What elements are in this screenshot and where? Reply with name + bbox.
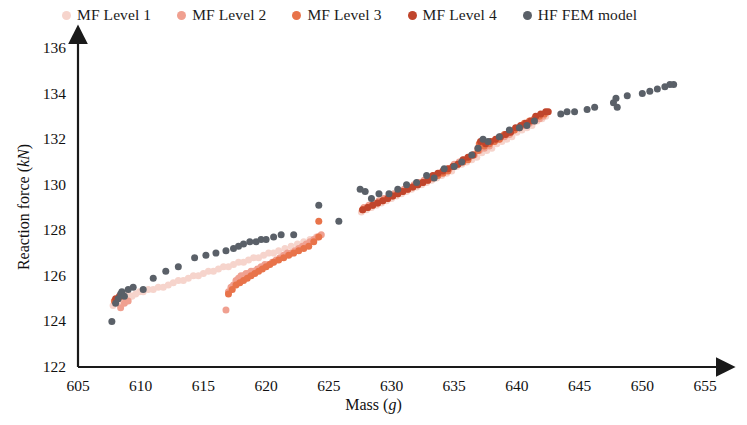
chart-figure: MF Level 1MF Level 2MF Level 3MF Level 4… — [0, 0, 747, 425]
y-axis-unit: kN — [15, 149, 32, 167]
data-point — [523, 122, 530, 129]
data-point — [315, 218, 322, 225]
data-point — [290, 231, 297, 238]
data-point — [362, 188, 369, 195]
data-point — [571, 108, 578, 115]
data-point — [531, 117, 538, 124]
data-point — [121, 293, 128, 300]
data-point — [108, 318, 115, 325]
scatter-canvas — [0, 0, 747, 425]
x-tick-label: 610 — [116, 377, 166, 395]
x-tick-label: 655 — [680, 377, 730, 395]
data-point — [150, 275, 157, 282]
data-point — [335, 218, 342, 225]
x-tick-label: 645 — [555, 377, 605, 395]
data-point — [385, 190, 392, 197]
data-point — [654, 86, 661, 93]
data-point — [315, 234, 322, 241]
data-point — [506, 127, 513, 134]
data-point — [451, 163, 458, 170]
x-tick-label: 615 — [178, 377, 228, 395]
x-tick-label: 620 — [241, 377, 291, 395]
data-point — [614, 104, 621, 111]
axis-lines — [78, 42, 718, 367]
data-point — [130, 284, 137, 291]
data-point — [423, 172, 430, 179]
data-point — [222, 307, 229, 314]
plot-area: 122124126128130132134136 605610615620625… — [0, 0, 747, 425]
data-point — [441, 165, 448, 172]
x-tick-label: 625 — [304, 377, 354, 395]
data-point — [639, 90, 646, 97]
data-point — [670, 81, 677, 88]
data-point — [240, 240, 247, 247]
data-point — [270, 234, 277, 241]
data-point — [140, 286, 147, 293]
y-tick-label: 122 — [26, 358, 66, 376]
y-tick-label: 136 — [26, 39, 66, 57]
data-point — [431, 174, 438, 181]
data-point — [413, 179, 420, 186]
data-point — [175, 263, 182, 270]
data-point — [246, 238, 253, 245]
data-point — [557, 111, 564, 118]
data-point — [458, 158, 465, 165]
data-point — [222, 247, 229, 254]
data-point — [564, 108, 571, 115]
data-point — [375, 190, 382, 197]
data-point — [315, 202, 322, 209]
data-point — [202, 252, 209, 259]
x-tick-label: 635 — [429, 377, 479, 395]
data-point — [212, 250, 219, 257]
data-point — [191, 254, 198, 261]
data-point — [368, 195, 375, 202]
data-point — [278, 231, 285, 238]
data-point — [468, 152, 475, 159]
data-point — [591, 104, 598, 111]
data-point — [516, 124, 523, 131]
x-tick-label: 605 — [53, 377, 103, 395]
data-point — [162, 268, 169, 275]
data-point — [612, 95, 619, 102]
x-tick-label: 630 — [367, 377, 417, 395]
data-point — [624, 92, 631, 99]
data-point — [545, 108, 552, 115]
data-point — [496, 133, 503, 140]
data-point — [263, 236, 270, 243]
data-point — [394, 186, 401, 193]
x-tick-label: 640 — [492, 377, 542, 395]
series-5-points — [108, 81, 677, 325]
y-axis-title: Reaction force (kN) — [15, 97, 33, 317]
x-axis-title: Mass (g) — [0, 396, 747, 414]
data-point — [584, 106, 591, 113]
x-tick-label: 650 — [617, 377, 667, 395]
x-axis-unit: g — [388, 396, 396, 413]
data-point — [475, 145, 482, 152]
data-point — [485, 138, 492, 145]
data-point — [646, 88, 653, 95]
data-point — [403, 181, 410, 188]
data-points — [108, 81, 677, 325]
